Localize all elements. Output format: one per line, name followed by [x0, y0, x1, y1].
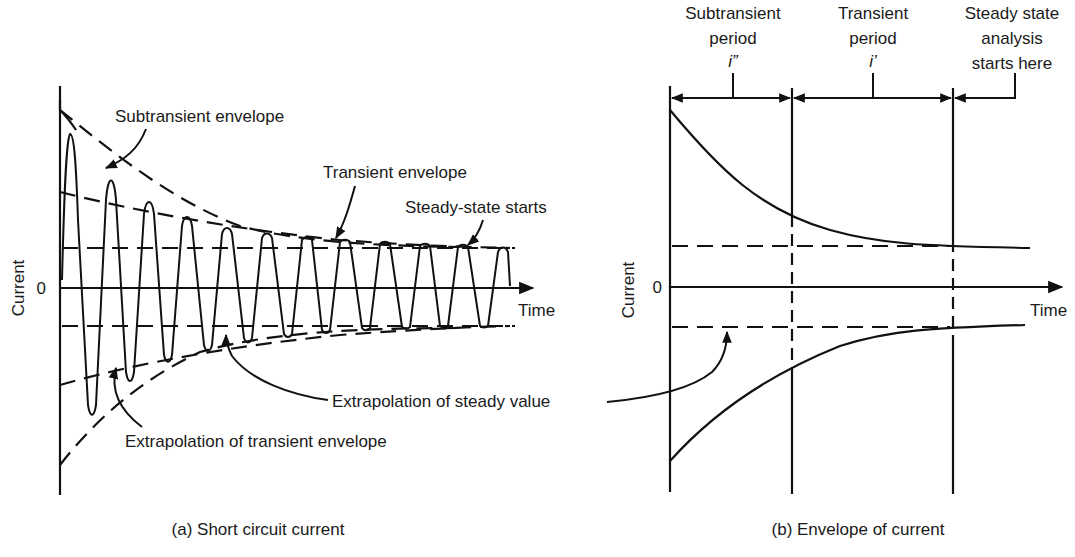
label-transient-symbol: i’	[869, 52, 877, 71]
label-steady-line1: Steady state	[965, 4, 1060, 23]
label-subtransient-line2: period	[709, 29, 756, 48]
label-subtransient-line1: Subtransient	[685, 4, 781, 23]
panel-a-y-axis-label: Current	[9, 259, 28, 316]
label-steady-state-starts: Steady-state starts	[405, 198, 547, 217]
arrow-extrapolation-steady-a	[226, 335, 328, 400]
label-subtransient-symbol: i”	[728, 52, 739, 71]
label-extrapolation-transient-envelope: Extrapolation of transient envelope	[125, 432, 387, 451]
label-transient-line2: period	[849, 29, 896, 48]
label-steady-line3: starts here	[972, 54, 1052, 73]
arrow-extrapolation-transient	[114, 368, 142, 427]
panel-b-time-label: Time	[1030, 301, 1067, 320]
panel-b-envelope-lower	[670, 325, 1025, 461]
label-extrapolation-steady-value: Extrapolation of steady value	[332, 392, 550, 411]
panel-a-time-label: Time	[518, 301, 555, 320]
arrow-extrapolation-steady-b	[607, 332, 727, 402]
label-transient-envelope: Transient envelope	[323, 163, 467, 182]
label-transient-line1: Transient	[838, 4, 909, 23]
diagram-canvas: Current 0 Time Subtransient envelope Tra…	[0, 0, 1075, 557]
panel-b-zero-label: 0	[653, 278, 662, 297]
label-steady-line2: analysis	[981, 29, 1042, 48]
panel-a-caption: (a) Short circuit current	[172, 520, 345, 539]
arrow-transient-envelope	[336, 186, 355, 238]
bracket-steady-state	[955, 73, 1015, 98]
label-subtransient-envelope: Subtransient envelope	[115, 107, 284, 126]
panel-b-envelope-upper	[670, 110, 1030, 248]
panel-b-envelope-of-current: Subtransient period i” Transient period …	[619, 4, 1067, 539]
panel-b-y-axis-label: Current	[619, 261, 638, 318]
arrow-steady-state-starts	[468, 220, 483, 245]
panel-a-zero-label: 0	[37, 279, 46, 298]
panel-b-caption: (b) Envelope of current	[772, 520, 945, 539]
panel-a-subtransient-start	[60, 100, 76, 130]
